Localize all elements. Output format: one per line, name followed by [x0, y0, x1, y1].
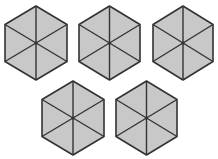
hexagon-row-bottom [42, 81, 177, 155]
hexagon-diagram [0, 0, 218, 159]
hexagon-center-dot [108, 41, 111, 44]
hexagon-5 [116, 81, 177, 155]
hexagon-row-top [5, 6, 213, 80]
hexagon-1 [5, 6, 67, 80]
hexagon-3 [153, 6, 213, 80]
hexagon-4 [42, 81, 104, 155]
hexagon-2 [79, 6, 140, 80]
hexagon-center-dot [145, 116, 148, 119]
hexagon-center-dot [71, 116, 74, 119]
hexagon-center-dot [34, 41, 37, 44]
hexagon-center-dot [181, 41, 184, 44]
